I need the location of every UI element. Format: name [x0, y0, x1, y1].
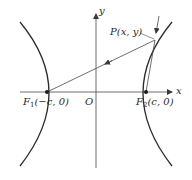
x-axis-label: x	[176, 86, 182, 96]
focus-2-name: F	[136, 96, 143, 107]
focus-1-point	[45, 90, 49, 94]
focus-1-label: F1(−c, 0)	[23, 97, 69, 109]
incoming-ray	[156, 16, 159, 33]
line-p-to-f1-arrow	[105, 61, 112, 64]
focus-1-coords: (−c, 0)	[34, 96, 69, 107]
point-p-label: P(x, y)	[110, 27, 142, 37]
focus-2-point	[144, 90, 148, 94]
focus-1-name: F	[23, 96, 30, 107]
focus-2-label: F2(c, 0)	[136, 97, 174, 109]
hyperbola-left-branch	[20, 22, 49, 166]
origin-label: O	[85, 97, 93, 107]
line-p-to-f1	[47, 40, 155, 92]
hyperbola-diagram	[0, 0, 192, 180]
focus-2-coords: (c, 0)	[147, 96, 173, 107]
y-axis-label: y	[99, 6, 105, 16]
